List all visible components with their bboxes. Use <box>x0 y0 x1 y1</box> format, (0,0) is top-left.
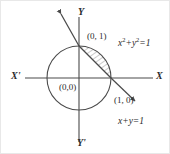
point-label-0-1: (0, 1) <box>87 32 107 41</box>
circle-eq-part-mid: +y <box>125 38 136 48</box>
axis-label-x-negative: X' <box>11 71 20 81</box>
point-label-1-0: (1, 0) <box>114 96 134 105</box>
axis-label-y-negative: Y' <box>77 138 86 148</box>
math-figure-unit-circle: (0, 1) (0,0) (1, 0) x2+y2=1 x+y=1 X' X Y… <box>0 0 170 154</box>
point-label-origin: (0,0) <box>59 83 76 92</box>
figure-canvas <box>1 1 170 154</box>
line-xy1-upper-segment <box>61 14 79 46</box>
line-equation-label: x+y=1 <box>118 117 144 127</box>
axis-label-x-positive: X <box>156 71 163 81</box>
circle-equation-label: x2+y2=1 <box>118 39 151 49</box>
axis-label-y-positive: Y <box>78 7 84 17</box>
circle-eq-part-end: =1 <box>139 38 150 48</box>
